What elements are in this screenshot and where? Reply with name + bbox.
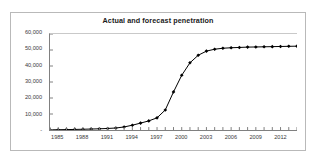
data-point-marker <box>131 123 135 127</box>
data-point-marker <box>205 49 209 53</box>
data-point-marker <box>221 46 225 50</box>
data-point-marker <box>238 46 242 50</box>
data-point-marker <box>262 45 266 49</box>
x-tick-label: 1994 <box>125 135 137 141</box>
y-tick-marks <box>50 34 53 130</box>
line-series-svg <box>50 34 297 130</box>
x-tick-label: 2012 <box>274 135 286 141</box>
chart-frame: Actual and forecast penetration 60,00050… <box>10 12 306 151</box>
x-tick-label: 2003 <box>200 135 212 141</box>
plot-area <box>49 33 297 131</box>
chart-figure: Actual and forecast penetration 60,00050… <box>0 0 316 164</box>
data-point-marker <box>246 45 250 49</box>
series-group <box>50 44 297 130</box>
data-point-marker <box>213 47 217 51</box>
y-tick-label: 50,000 <box>25 47 46 53</box>
x-axis-tick-labels: 1985198819911994199720002003200620092012 <box>49 133 297 145</box>
y-tick-label: 10,000 <box>25 112 46 118</box>
x-tick-label: 1997 <box>150 135 162 141</box>
x-tick-label: 1991 <box>101 135 113 141</box>
data-point-marker <box>229 46 233 50</box>
y-tick-label: 40,000 <box>25 63 46 69</box>
data-point-marker <box>254 45 258 49</box>
data-point-marker <box>287 45 291 49</box>
data-point-marker <box>147 119 151 123</box>
data-point-marker <box>139 121 143 125</box>
y-tick-label: 60,000 <box>25 30 46 36</box>
data-point-marker <box>270 45 274 49</box>
y-tick-label: - <box>40 128 46 134</box>
y-axis-tick-labels: 60,00050,00040,00030,00020,00010,000- <box>11 33 46 131</box>
series-line <box>50 46 297 130</box>
data-point-marker <box>172 90 176 94</box>
data-point-marker <box>295 44 297 48</box>
y-tick-label: 20,000 <box>25 96 46 102</box>
x-tick-label: 2006 <box>225 135 237 141</box>
x-tick-label: 1988 <box>76 135 88 141</box>
x-tick-label: 1985 <box>51 135 63 141</box>
x-tick-label: 2009 <box>249 135 261 141</box>
y-tick-label: 30,000 <box>25 79 46 85</box>
chart-title: Actual and forecast penetration <box>11 16 305 25</box>
data-point-marker <box>279 45 283 49</box>
x-tick-label: 2000 <box>175 135 187 141</box>
